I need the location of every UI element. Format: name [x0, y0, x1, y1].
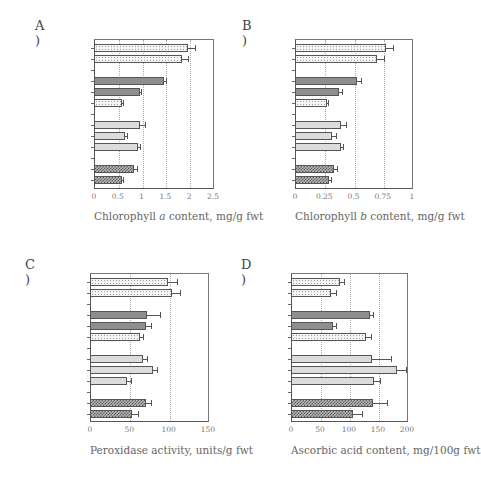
error-bar-cap [143, 334, 144, 340]
bar [291, 355, 372, 363]
panel-c-x-axis-label: Peroxidase activity, units/g fwt [90, 444, 209, 456]
y-tick [288, 293, 291, 294]
y-tick [91, 59, 94, 60]
y-tick [292, 70, 295, 71]
y-tick [91, 136, 94, 137]
y-tick [292, 59, 295, 60]
y-tick [91, 48, 94, 49]
y-tick [87, 293, 90, 294]
error-bar-cap [123, 177, 124, 183]
bar [90, 366, 153, 374]
error-bar-cap [145, 122, 146, 128]
y-tick [91, 169, 94, 170]
y-tick [288, 326, 291, 327]
error-bar-cap [393, 45, 394, 51]
bar [94, 165, 134, 173]
bar [291, 289, 331, 297]
bar [94, 143, 138, 151]
y-tick [91, 103, 94, 104]
bar [295, 176, 329, 184]
x-tick-label: 1 [397, 192, 427, 201]
bar [291, 366, 397, 374]
bar [295, 121, 341, 129]
error-bar-cap [127, 133, 128, 139]
error-bar-cap [337, 166, 338, 172]
error-bar-cap [331, 177, 332, 183]
y-tick [87, 381, 90, 382]
bar [90, 333, 140, 341]
panel-b-label: B ) [242, 18, 252, 48]
bar [291, 278, 340, 286]
error-bar-cap [346, 122, 347, 128]
bar [90, 311, 147, 319]
bar [295, 99, 327, 107]
y-tick [288, 392, 291, 393]
error-bar-cap [137, 166, 138, 172]
error-bar-cap [151, 323, 152, 329]
bar [291, 399, 373, 407]
y-tick [91, 114, 94, 115]
y-tick [91, 70, 94, 71]
error-bar-cap [373, 312, 374, 318]
error-bar [397, 370, 407, 371]
error-bar [168, 282, 177, 283]
error-bar-cap [343, 144, 344, 150]
error-bar-cap [138, 411, 139, 417]
bar [90, 410, 132, 418]
x-axis-label-text: content, mg/g fwt [367, 210, 465, 222]
y-tick [288, 414, 291, 415]
bar [94, 176, 122, 184]
error-bar-cap [180, 290, 181, 296]
y-tick [292, 136, 295, 137]
error-bar [372, 359, 391, 360]
bar [94, 77, 164, 85]
y-tick [292, 114, 295, 115]
error-bar-cap [328, 100, 329, 106]
panel-d-label: D ) [241, 257, 251, 287]
error-bar-cap [195, 45, 196, 51]
bar [94, 88, 140, 96]
bar [291, 410, 353, 418]
bar [295, 55, 377, 63]
error-bar-cap [131, 378, 132, 384]
error-bar [147, 315, 160, 316]
bar [291, 311, 370, 319]
bar [295, 77, 357, 85]
error-bar-cap [344, 279, 345, 285]
error-bar-cap [157, 367, 158, 373]
y-tick [288, 403, 291, 404]
y-tick [87, 304, 90, 305]
bar [295, 44, 386, 52]
error-bar-cap [147, 356, 148, 362]
y-tick [91, 147, 94, 148]
bar [295, 88, 339, 96]
y-tick [288, 315, 291, 316]
x-axis-label-text: content, mg/g fwt [166, 210, 264, 222]
error-bar-cap [336, 323, 337, 329]
bar [291, 322, 333, 330]
error-bar-cap [336, 290, 337, 296]
bar [295, 165, 334, 173]
error-bar-cap [361, 78, 362, 84]
x-tick-label: 100 [154, 425, 184, 434]
x-tick-label: 100 [334, 425, 364, 434]
x-tick-label: 200 [392, 425, 422, 434]
bar [90, 399, 146, 407]
y-tick [87, 370, 90, 371]
y-tick [288, 381, 291, 382]
bar [295, 132, 332, 140]
y-tick [292, 158, 295, 159]
panel-a-x-axis-label: Chlorophyll a content, mg/g fwt [94, 210, 214, 222]
y-tick [87, 392, 90, 393]
error-bar-cap [177, 279, 178, 285]
y-tick [288, 337, 291, 338]
panel-d-plot-area [291, 273, 408, 422]
y-tick [87, 403, 90, 404]
error-bar-cap [141, 89, 142, 95]
y-tick [288, 282, 291, 283]
error-bar-cap [140, 144, 141, 150]
x-tick-label: 0.75 [368, 192, 398, 201]
x-tick-label: 50 [114, 425, 144, 434]
error-bar-cap [391, 356, 392, 362]
panel-a-label: A ) [35, 18, 44, 48]
